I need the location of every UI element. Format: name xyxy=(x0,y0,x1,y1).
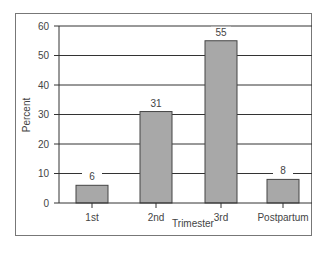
x-tick-label: Postpartum xyxy=(257,212,308,223)
y-tick-label: 0 xyxy=(43,198,49,209)
data-label: 55 xyxy=(215,27,227,38)
y-tick-label: 20 xyxy=(38,139,50,150)
x-tick-label: 2nd xyxy=(148,212,165,223)
bar-3rd xyxy=(205,41,237,203)
data-label: 6 xyxy=(89,171,95,182)
y-tick-label: 30 xyxy=(38,109,50,120)
y-tick-label: 50 xyxy=(38,50,50,61)
x-tick-label: 1st xyxy=(85,212,99,223)
x-tick-label: 3rd xyxy=(214,212,228,223)
bar-postpartum xyxy=(267,179,299,203)
data-label: 31 xyxy=(150,98,162,109)
bar-1st xyxy=(76,185,108,203)
gridlines xyxy=(54,26,312,174)
y-tick-label: 10 xyxy=(38,168,50,179)
y-axis-label: Percent xyxy=(21,98,32,133)
y-tick-label: 60 xyxy=(38,21,50,32)
bar-chart: 631558 01020304050601st2nd3rdPostpartum … xyxy=(0,0,325,253)
y-tick-label: 40 xyxy=(38,80,50,91)
x-axis-label: Trimester xyxy=(172,218,215,229)
bar-2nd xyxy=(140,112,172,203)
data-label: 8 xyxy=(280,165,286,176)
